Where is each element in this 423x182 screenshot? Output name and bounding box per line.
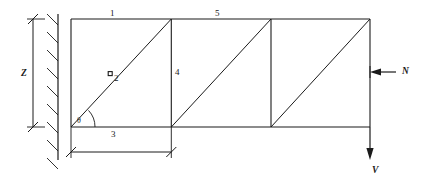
- base-length-dimension: [66, 127, 176, 158]
- truss-diagram: 1 2 3 4 5 Z θ N V: [0, 0, 423, 182]
- dimension-label-z: Z: [21, 69, 27, 79]
- fixed-support-wall: [47, 14, 58, 169]
- load-label-n: N: [402, 67, 409, 77]
- member-label-5: 5: [215, 9, 220, 18]
- diagonal-2: [171, 19, 271, 127]
- member-label-2: 2: [114, 74, 119, 83]
- node-marker-icon: [108, 72, 112, 76]
- truss-drawing-canvas: [0, 0, 423, 182]
- load-arrow-n: [370, 66, 396, 78]
- diagonal-1: [71, 19, 171, 127]
- angle-label-theta: θ: [77, 117, 81, 125]
- wall-hatching: [47, 14, 58, 169]
- height-dimension-z: [27, 14, 45, 132]
- member-label-1: 1: [110, 9, 115, 18]
- diagonal-3: [271, 19, 370, 127]
- n-arrow-head-icon: [370, 68, 381, 75]
- member-label-3: 3: [111, 130, 116, 139]
- load-arrow-v: [366, 127, 373, 160]
- load-label-v: V: [372, 166, 378, 176]
- v-arrow-head-icon: [366, 148, 373, 160]
- member-label-4: 4: [175, 68, 180, 77]
- angle-arc: [89, 110, 96, 127]
